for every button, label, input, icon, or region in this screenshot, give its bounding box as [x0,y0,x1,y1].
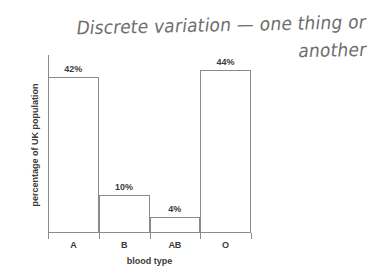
bar-value-label-ab: 4% [150,204,201,214]
bar-b [99,195,150,232]
x-tick-mark [200,233,201,239]
x-tick-mark [251,233,252,239]
bar-value-label-a: 42% [48,64,99,74]
x-tick-mark [48,233,49,239]
bar-a [48,77,99,232]
x-tick-label-ab: AB [150,240,201,250]
x-tick-mark [99,233,100,239]
handwritten-annotation-line-1: Discrete variation — one thing or [75,11,368,39]
bar-ab [150,217,201,232]
bar-o [200,70,251,232]
x-tick-mark [150,233,151,239]
bar-value-label-o: 44% [200,57,251,67]
x-tick-label-o: O [200,240,251,250]
x-axis-title: blood type [48,256,251,266]
handwritten-annotation-line-2: another [297,39,368,62]
bar-value-label-b: 10% [99,182,150,192]
bar-chart: Discrete variation — one thing or anothe… [0,0,392,271]
x-tick-label-b: B [99,240,150,250]
x-tick-label-a: A [48,240,99,250]
y-axis-title: percentage of UK population [30,65,40,225]
